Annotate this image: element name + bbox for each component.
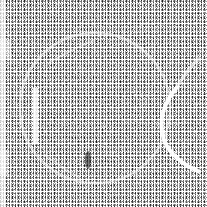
left-vertical-bar (33, 88, 38, 143)
left-edge-notch-lower (0, 150, 8, 175)
noise-speckle (0, 0, 207, 207)
left-edge-notch (0, 40, 10, 60)
image-svg (0, 0, 207, 207)
dithered-image (0, 0, 207, 207)
dark-spot (85, 151, 91, 169)
left-edge (0, 0, 6, 207)
